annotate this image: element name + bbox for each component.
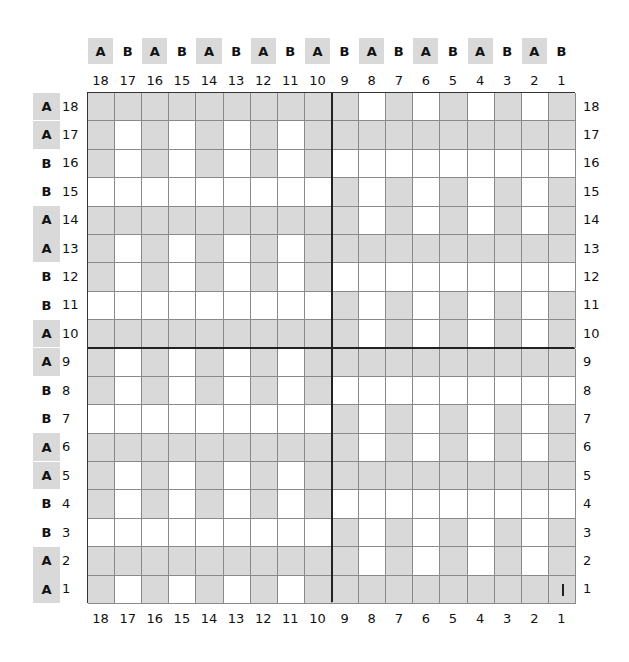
column-number-bottom: 7 [385, 608, 412, 628]
grid-cell [549, 490, 576, 518]
grid-cell [196, 93, 223, 121]
grid-cell [169, 576, 196, 604]
weave-grid [87, 92, 575, 603]
column-number-bottom: 15 [168, 608, 195, 628]
grid-cell [549, 263, 576, 291]
grid-cell [386, 150, 413, 178]
column-number-top: 12 [250, 70, 277, 90]
grid-cell [522, 235, 549, 263]
grid-cell [468, 490, 495, 518]
grid-cell [115, 490, 142, 518]
grid-cell [359, 292, 386, 320]
row-number-left: 1 [62, 575, 84, 603]
grid-cell [549, 405, 576, 433]
row-number-right: 11 [583, 291, 607, 319]
column-letter-18: A [88, 38, 113, 64]
grid-cell [495, 178, 522, 206]
grid-cell [522, 292, 549, 320]
grid-cell [278, 121, 305, 149]
grid-cell [142, 349, 169, 377]
grid-cell [468, 434, 495, 462]
grid-cell [413, 576, 440, 604]
column-number-top: 14 [195, 70, 222, 90]
row-number-left: 17 [62, 120, 84, 148]
grid-cell [413, 235, 440, 263]
grid-cell [440, 320, 467, 348]
grid-cell [386, 235, 413, 263]
column-number-top: 7 [385, 70, 412, 90]
grid-cell [115, 462, 142, 490]
grid-cell [88, 462, 115, 490]
grid-cell [224, 263, 251, 291]
grid-cell [522, 207, 549, 235]
grid-cell [468, 349, 495, 377]
grid-cell [278, 490, 305, 518]
grid-cell [224, 235, 251, 263]
grid-cell [88, 405, 115, 433]
grid-cell [115, 178, 142, 206]
grid-cell [386, 377, 413, 405]
grid-cell [115, 207, 142, 235]
grid-cell [549, 207, 576, 235]
grid-cell [196, 576, 223, 604]
grid-cell [224, 405, 251, 433]
column-letter-7: B [386, 38, 411, 64]
grid-cell [169, 434, 196, 462]
column-number-top: 11 [277, 70, 304, 90]
grid-cell [440, 519, 467, 547]
grid-cell [196, 178, 223, 206]
grid-cell [359, 207, 386, 235]
grid-cell [142, 121, 169, 149]
grid-cell [468, 576, 495, 604]
grid-cell [88, 207, 115, 235]
grid-cell [169, 93, 196, 121]
grid-cell [522, 377, 549, 405]
row-number-left: 7 [62, 404, 84, 432]
grid-cell [549, 547, 576, 575]
grid-cell [196, 519, 223, 547]
grid-cell [224, 292, 251, 320]
grid-cell [522, 519, 549, 547]
grid-cell [169, 121, 196, 149]
grid-cell [88, 349, 115, 377]
grid-cell [495, 207, 522, 235]
grid-cell [115, 150, 142, 178]
column-number-bottom: 3 [494, 608, 521, 628]
grid-cell [359, 377, 386, 405]
grid-cell [359, 178, 386, 206]
grid-cell [359, 490, 386, 518]
column-number-bottom: 13 [223, 608, 250, 628]
grid-cell [522, 434, 549, 462]
grid-cell [305, 434, 332, 462]
grid-cell [440, 434, 467, 462]
column-number-top: 13 [223, 70, 250, 90]
grid-cell [88, 320, 115, 348]
grid-cell [386, 263, 413, 291]
column-number-bottom: 2 [521, 608, 548, 628]
grid-cell [359, 235, 386, 263]
grid-cell [440, 490, 467, 518]
grid-cell [142, 93, 169, 121]
row-letter-18: A [33, 93, 60, 121]
grid-cell [386, 93, 413, 121]
grid-cell [468, 320, 495, 348]
grid-cell [169, 547, 196, 575]
grid-cell [196, 235, 223, 263]
grid-cell [359, 150, 386, 178]
row-number-right: 16 [583, 149, 607, 177]
grid-cell [522, 576, 549, 604]
row-number-right: 15 [583, 177, 607, 205]
grid-cell [224, 349, 251, 377]
column-letter-2: A [522, 38, 547, 64]
column-letter-13: B [224, 38, 249, 64]
grid-cell [386, 207, 413, 235]
grid-cell [88, 263, 115, 291]
grid-cell [386, 320, 413, 348]
grid-cell [196, 462, 223, 490]
grid-cell [495, 349, 522, 377]
row-number-right: 1 [583, 575, 607, 603]
grid-cell [468, 207, 495, 235]
row-number-right: 2 [583, 546, 607, 574]
row-number-left: 4 [62, 489, 84, 517]
grid-cell [196, 349, 223, 377]
